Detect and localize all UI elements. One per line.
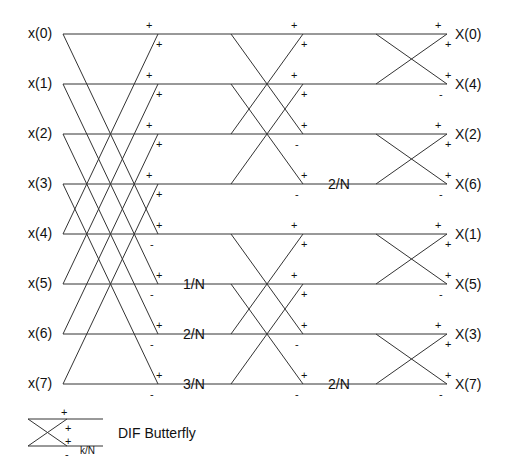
legend-twiddle: k/N bbox=[80, 446, 95, 456]
legend-minus: - bbox=[65, 449, 69, 460]
legend-plus-mid: + bbox=[65, 423, 71, 434]
legend-plus-low: + bbox=[65, 436, 71, 447]
legend-plus-top: + bbox=[61, 407, 67, 418]
legend-butterfly-glyph bbox=[0, 0, 511, 476]
legend-label: DIF Butterfly bbox=[118, 425, 196, 441]
